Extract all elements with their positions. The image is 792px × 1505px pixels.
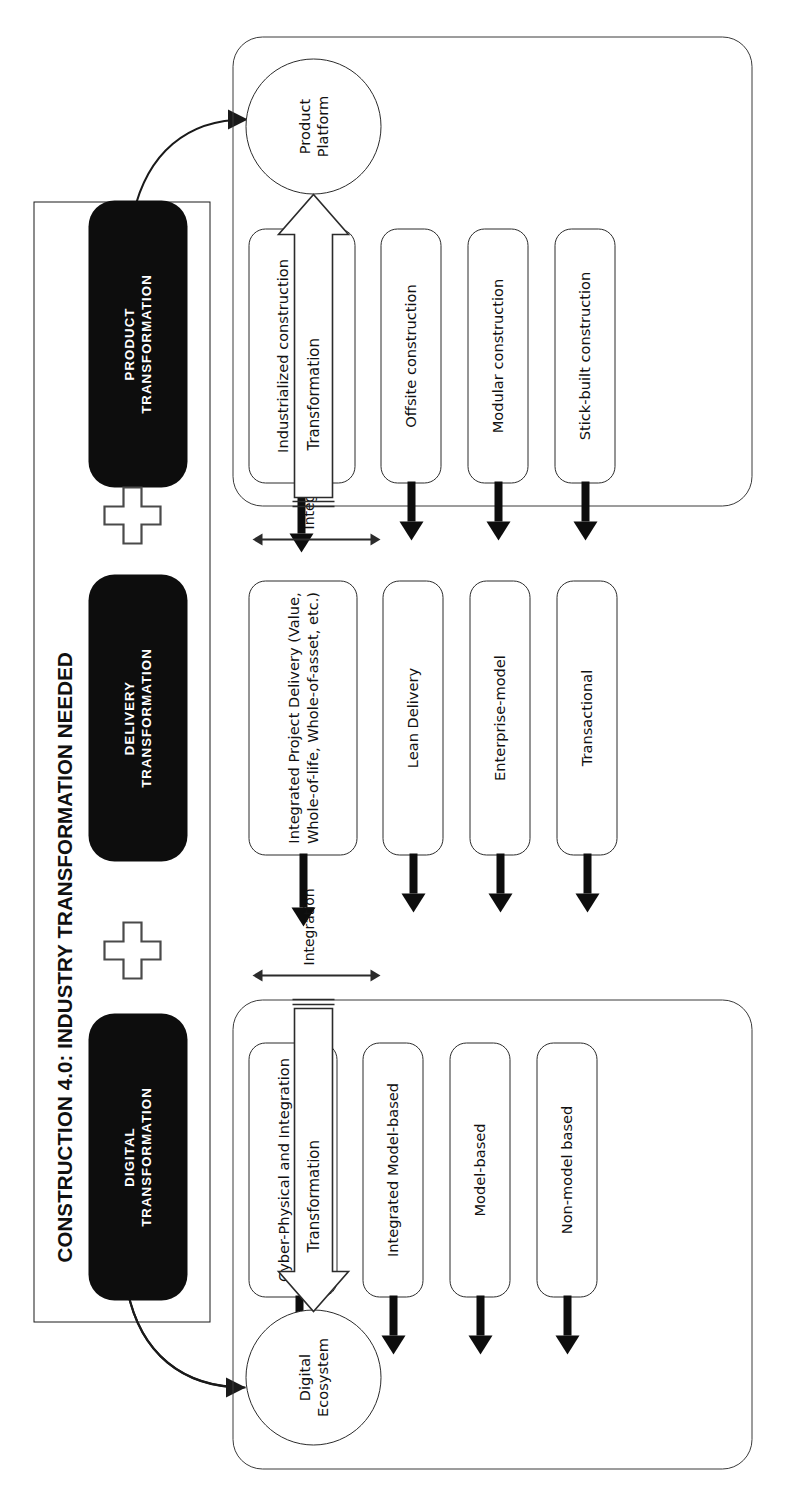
digital-pill-line2: TRANSFORMATION [138, 1087, 155, 1227]
delivery-pill-line1: DELIVERY [121, 680, 138, 754]
plus-icon-2 [100, 483, 164, 547]
product-transformation-arrow-label: Transformation [304, 337, 322, 450]
digital-stage-3[interactable]: Integrated Model-based [362, 1042, 423, 1297]
product-stage-3-label: Offsite construction [401, 284, 420, 427]
plus-icon-1-svg [100, 918, 164, 982]
diagram-stage: CONSTRUCTION 4.0: INDUSTRY TRANSFORMATIO… [0, 0, 792, 1505]
product-stage-2-label: Modular construction [488, 278, 507, 432]
digital-stage-1-label: Non-model based [557, 1105, 576, 1234]
delivery-stage-1-label: Transactional [577, 669, 596, 765]
delivery-stage-4-label: Integrated Project Delivery (Value, Whol… [284, 589, 322, 846]
digital-stage-2[interactable]: Model-based [449, 1042, 510, 1297]
product-transformation-pill[interactable]: PRODUCT TRANSFORMATION [88, 200, 187, 487]
digital-arrow-2-to-3 [468, 1295, 492, 1335]
delivery-pill-line2: TRANSFORMATION [138, 648, 155, 788]
product-stage-1[interactable]: Stick-built construction [554, 228, 615, 483]
delivery-arrow-2-to-3 [488, 853, 512, 893]
product-stage-2[interactable]: Modular construction [467, 228, 528, 483]
integration-label-1: Integration [300, 888, 316, 965]
delivery-transformation-pill[interactable]: DELIVERY TRANSFORMATION [88, 574, 187, 861]
product-arrow-3-to-4 [399, 481, 423, 521]
digital-arrow-1-to-2 [555, 1295, 579, 1335]
product-stage-1-label: Stick-built construction [575, 271, 594, 440]
digital-stage-1[interactable]: Non-model based [536, 1042, 597, 1297]
digital-transformation-pill[interactable]: DIGITAL TRANSFORMATION [88, 1013, 187, 1300]
product-arrow-1-to-2 [573, 481, 597, 521]
integration-arrow-delivery-product [252, 530, 380, 548]
digital-transformation-arrow-label: Transformation [304, 1139, 322, 1252]
product-stage-3[interactable]: Offsite construction [380, 228, 441, 483]
delivery-arrow-1-to-2 [575, 853, 599, 893]
page-title: CONSTRUCTION 4.0: INDUSTRY TRANSFORMATIO… [52, 652, 76, 1262]
delivery-stage-3-label: Lean Delivery [403, 667, 422, 767]
diagram-page: CONSTRUCTION 4.0: INDUSTRY TRANSFORMATIO… [0, 0, 792, 1505]
plus-icon-2-svg [100, 483, 164, 547]
product-arrow-2-to-3 [486, 481, 510, 521]
delivery-stage-3[interactable]: Lean Delivery [382, 580, 443, 855]
product-pill-line2: TRANSFORMATION [138, 274, 155, 414]
product-platform-node[interactable]: Product Platform [245, 58, 381, 194]
delivery-arrow-3-to-4 [401, 853, 425, 893]
product-platform-line2: Platform [313, 95, 331, 157]
delivery-stage-2[interactable]: Enterprise-model [469, 580, 530, 855]
delivery-stage-1[interactable]: Transactional [556, 580, 617, 855]
digital-ecosystem-node[interactable]: Digital Ecosystem [245, 1309, 381, 1445]
digital-ecosystem-line1: Digital [295, 1353, 313, 1400]
digital-arrow-3-to-4 [381, 1295, 405, 1335]
plus-icon-1 [100, 918, 164, 982]
digital-stage-2-label: Model-based [470, 1123, 489, 1216]
digital-pill-line1: DIGITAL [121, 1127, 138, 1186]
delivery-stage-2-label: Enterprise-model [490, 655, 509, 781]
integration-arrow-digital-delivery [252, 966, 380, 984]
product-pill-line1: PRODUCT [121, 307, 138, 380]
delivery-stage-4[interactable]: Integrated Project Delivery (Value, Whol… [248, 580, 357, 855]
digital-stage-3-label: Integrated Model-based [383, 1082, 402, 1256]
product-platform-line1: Product [295, 98, 313, 153]
digital-ecosystem-line2: Ecosystem [313, 1338, 331, 1417]
